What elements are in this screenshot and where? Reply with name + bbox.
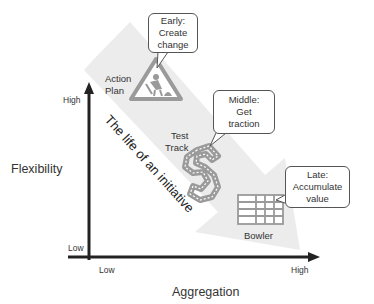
callout-middle: Middle: Get traction [213, 90, 275, 134]
x-axis-low-label: Low [99, 265, 115, 275]
y-axis-high-label: High [63, 95, 80, 105]
stage-label-action-plan: Action Plan [105, 73, 131, 97]
stage-label-test-track: Test Track [165, 130, 188, 154]
y-axis [84, 82, 94, 260]
x-axis-high-label: High [291, 265, 308, 275]
callout-late: Late: Accumulate value [285, 166, 350, 208]
race-track-icon [185, 146, 218, 200]
x-axis [68, 252, 320, 262]
x-axis-title: Aggregation [172, 285, 239, 299]
stage-label-bowler: Bowler [244, 230, 273, 242]
y-axis-title: Flexibility [11, 162, 62, 176]
y-axis-low-label: Low [68, 243, 84, 253]
callout-early: Early: Create change [148, 13, 198, 53]
